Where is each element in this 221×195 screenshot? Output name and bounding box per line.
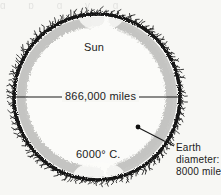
earth-dot [136,125,141,130]
sun-label: Sun [84,41,104,53]
earth-callout-line-2: diameter: [176,154,221,166]
earth-callout-label: Earth diameter: 8000 miles [176,142,221,178]
earth-callout-line-1: Earth [176,142,221,154]
sun-temperature-label: 6000° C. [76,148,121,160]
sun-diagram-figure: g p g y g [0,0,221,195]
earth-callout-line-3: 8000 miles [176,166,221,178]
sun-diameter-label: 866,000 miles [62,90,139,102]
